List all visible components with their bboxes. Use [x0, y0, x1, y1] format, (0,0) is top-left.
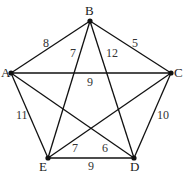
vertex-c — [168, 70, 173, 75]
vertex-label-b: B — [85, 3, 94, 18]
edge-weight-a-d: 6 — [102, 141, 108, 155]
vertices — [8, 18, 173, 160]
edge-weight-b-c: 5 — [132, 36, 138, 50]
vertex-b — [87, 18, 92, 23]
edge-weight-b-d: 12 — [106, 46, 118, 60]
edge-weight-b-e: 7 — [70, 46, 76, 60]
edge-weight-e-d: 9 — [88, 159, 94, 172]
edge-weight-a-b: 8 — [43, 36, 49, 50]
edge-b-c — [90, 21, 171, 73]
edge-b-d — [90, 21, 134, 158]
edge-weight-c-d: 10 — [157, 108, 169, 122]
vertex-label-a: A — [1, 65, 11, 80]
vertex-label-e: E — [39, 159, 47, 172]
graph-diagram: 8571291110769 ABCDE — [0, 0, 187, 172]
edge-weight-a-c: 9 — [87, 75, 93, 89]
edge-a-b — [11, 21, 90, 73]
vertex-label-c: C — [174, 65, 183, 80]
edge-weight-e-c: 7 — [72, 141, 78, 155]
edges — [11, 21, 171, 158]
edge-b-e — [48, 21, 90, 158]
edge-weight-a-e: 11 — [16, 108, 28, 122]
vertex-label-d: D — [130, 159, 139, 172]
